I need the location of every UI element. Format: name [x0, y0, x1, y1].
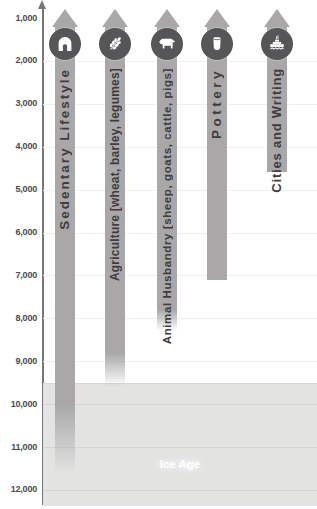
ice-age-label: Ice Age	[43, 458, 317, 470]
y-tick-4000: 4,000	[0, 141, 37, 152]
bar-arrowhead-icon	[102, 9, 128, 27]
city-icon	[261, 28, 293, 60]
bar-label-cities-and-writing: Cities and Writing	[270, 68, 284, 193]
gridline-10000	[43, 404, 317, 405]
bar-label-animal-husbandry-sheep-goats-cattle-pigs: Animal Husbandry [sheep, goats, cattle, …	[160, 68, 174, 344]
gridline-11000	[43, 447, 317, 448]
timeline-chart: Ice Age 1,0002,0003,0004,0005,0006,0007,…	[0, 0, 317, 509]
gridline-9000	[43, 361, 317, 362]
y-tick-12000: 12,000	[0, 484, 37, 495]
y-tick-10000: 10,000	[0, 399, 37, 410]
y-tick-11000: 11,000	[0, 442, 37, 453]
gridline-8000	[43, 318, 317, 319]
bar-label-sedentary-lifestyle: Sedentary Lifestyle	[58, 68, 72, 230]
y-tick-7000: 7,000	[0, 270, 37, 281]
bar-body	[207, 26, 227, 280]
y-tick-1000: 1,000	[0, 13, 37, 24]
y-tick-9000: 9,000	[0, 356, 37, 367]
y-tick-3000: 3,000	[0, 98, 37, 109]
y-tick-5000: 5,000	[0, 184, 37, 195]
hut-icon	[49, 28, 81, 60]
wheat-icon	[99, 28, 131, 60]
ice-age-region	[43, 383, 317, 506]
cow-icon	[151, 28, 183, 60]
pot-icon	[201, 28, 233, 60]
bar-arrowhead-icon	[204, 9, 230, 27]
y-tick-8000: 8,000	[0, 313, 37, 324]
bar-arrowhead-icon	[52, 9, 78, 27]
bar-arrowhead-icon	[154, 9, 180, 27]
bar-arrowhead-icon	[264, 9, 290, 27]
y-tick-2000: 2,000	[0, 55, 37, 66]
bar-label-pottery: Pottery	[210, 68, 224, 139]
y-tick-6000: 6,000	[0, 227, 37, 238]
gridline-7000	[43, 275, 317, 276]
gridline-6000	[43, 233, 317, 234]
bar-label-agriculture-wheat-barley-legumes: Agriculture [wheat, barley, legumes]	[108, 68, 122, 281]
gridline-12000	[43, 490, 317, 491]
